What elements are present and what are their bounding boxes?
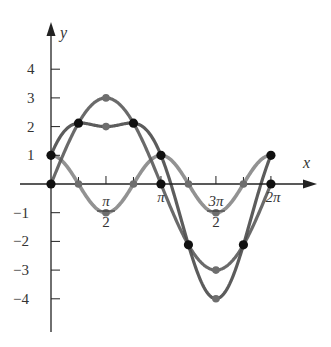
- y-tick-label: −2: [13, 233, 29, 249]
- gray-point: [185, 180, 193, 188]
- x-tick-label-den: 2: [212, 214, 220, 230]
- x-tick-label-num: 3π: [207, 193, 224, 209]
- gray-point: [212, 295, 220, 303]
- gray-point: [130, 180, 138, 188]
- black-point: [266, 151, 275, 160]
- black-point: [184, 240, 193, 249]
- gray-point: [102, 94, 110, 102]
- x-axis-label: x: [302, 154, 310, 171]
- function-graph: 4321−1−2−3−4π2π3π22πxy: [0, 0, 331, 347]
- black-point: [46, 151, 55, 160]
- black-point: [156, 179, 165, 188]
- y-tick-label: −4: [13, 291, 29, 307]
- y-tick-label: 1: [27, 147, 35, 163]
- gray-point: [102, 123, 110, 131]
- black-point: [129, 119, 138, 128]
- x-axis-arrow-icon: [303, 180, 317, 189]
- y-tick-label: −3: [13, 262, 29, 278]
- x-tick-label: π: [157, 189, 165, 205]
- y-tick-label: 2: [27, 119, 35, 135]
- gray-point: [212, 266, 220, 274]
- black-point: [266, 179, 275, 188]
- y-tick-label: −1: [13, 205, 29, 221]
- x-tick-label-den: 2: [102, 214, 110, 230]
- y-axis-arrow-icon: [47, 22, 56, 36]
- gray-point: [240, 180, 248, 188]
- x-tick-label-num: π: [102, 193, 110, 209]
- y-tick-label: 3: [27, 90, 35, 106]
- gray-point: [75, 180, 83, 188]
- curve-sum: [51, 123, 271, 299]
- black-point: [46, 179, 55, 188]
- y-axis-label: y: [58, 24, 68, 42]
- black-point: [239, 240, 248, 249]
- x-tick-label: 2π: [265, 189, 281, 205]
- black-point: [74, 119, 83, 128]
- y-tick-label: 4: [27, 61, 35, 77]
- black-point: [156, 151, 165, 160]
